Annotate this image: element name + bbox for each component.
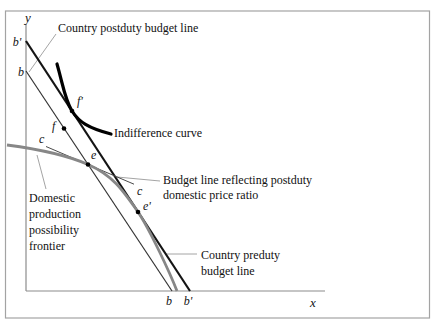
point-e-label: e [91, 148, 97, 162]
y-intercept-b-label: b [18, 65, 24, 79]
point-f-prime [70, 109, 75, 114]
figure-canvas: y x b' b b b' f' f e e' c c Country post… [0, 0, 437, 321]
point-c-lower-label: c [137, 184, 143, 198]
annotation-preduty-budget-line-2: budget line [201, 264, 255, 278]
annotation-domestic-price-line-1: Budget line reflecting postduty [163, 173, 312, 187]
point-f-prime-label: f' [77, 94, 83, 108]
point-f [62, 126, 67, 131]
economics-diagram: y x b' b b b' f' f e e' c c Country post… [0, 0, 437, 321]
annotation-ppf-1: Domestic [29, 191, 75, 205]
point-e-prime-label: e' [143, 199, 151, 213]
annotation-domestic-price-line-2: domestic price ratio [163, 188, 258, 202]
x-axis-label: x [309, 295, 316, 310]
point-e [86, 162, 91, 167]
point-e-prime [136, 210, 141, 215]
annotation-ppf-2: production [29, 207, 81, 221]
annotation-indifference-curve: Indifference curve [114, 126, 202, 140]
annotation-preduty-budget-line-1: Country preduty [201, 248, 280, 262]
point-c-upper-label: c [39, 132, 45, 146]
x-intercept-b-prime-label: b' [184, 294, 193, 308]
annotation-postduty-budget-line: Country postduty budget line [58, 21, 198, 35]
y-intercept-b-prime-label: b' [13, 35, 22, 49]
y-axis-label: y [23, 10, 31, 25]
annotation-ppf-3: possibility [29, 223, 79, 237]
annotation-ppf-4: frontier [29, 239, 65, 253]
x-intercept-b-label: b [166, 294, 172, 308]
